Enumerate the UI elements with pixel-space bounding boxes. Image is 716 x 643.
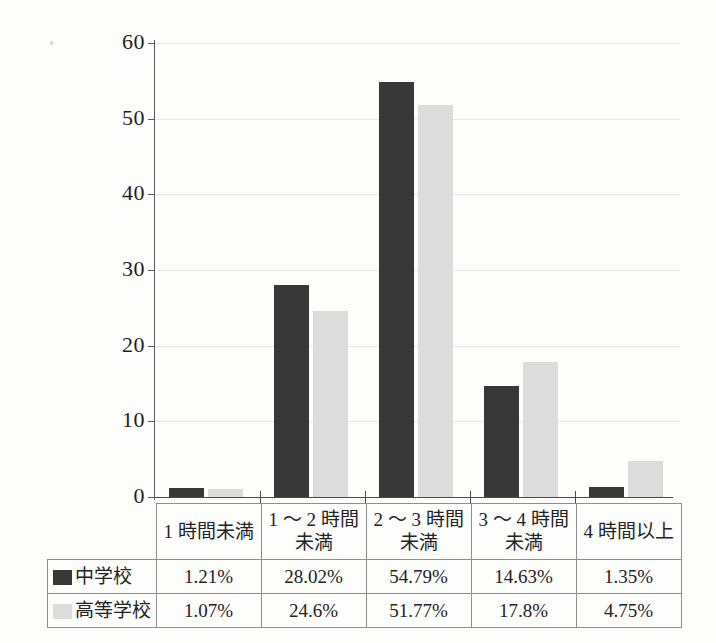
y-tick-label: 50 xyxy=(99,107,145,129)
y-tick-mark xyxy=(148,270,155,271)
table-cell-s0-c0: 1.21% xyxy=(156,560,261,594)
table-row-series-0: 中学校 1.21%28.02%54.79%14.63%1.35% xyxy=(48,560,682,594)
y-tick-label: 40 xyxy=(99,182,145,204)
table-header-category-3: 3 ～ 4 時間未満 xyxy=(471,504,576,560)
legend-swatch-icon-series-0 xyxy=(53,570,72,585)
table-row-series-1: 高等学校 1.07%24.6%51.77%17.8%4.75% xyxy=(48,594,682,628)
bar-0-2 xyxy=(379,82,414,497)
legend-cell-series-1: 高等学校 xyxy=(48,594,157,628)
chart-page: 0102030405060 1 時間未満1 ～ 2 時間未満2 ～ 3 時間未満… xyxy=(0,0,716,643)
table-cell-s0-c2: 54.79% xyxy=(366,560,471,594)
category-label-line: 未満 xyxy=(262,531,366,554)
category-label-line: 未満 xyxy=(367,531,471,554)
table-corner-cell xyxy=(48,504,157,560)
bar-1-3 xyxy=(523,362,558,497)
data-table: 1 時間未満1 ～ 2 時間未満2 ～ 3 時間未満3 ～ 4 時間未満4 時間… xyxy=(47,503,682,628)
table-cell-s1-c3: 17.8% xyxy=(471,594,576,628)
bar-group xyxy=(365,43,470,497)
scan-artifact-speck xyxy=(50,41,53,45)
plot-area xyxy=(155,43,680,497)
table-cell-s1-c2: 51.77% xyxy=(366,594,471,628)
category-label-line: 1 ～ 2 時間 xyxy=(262,508,366,531)
legend-swatch-icon-series-1 xyxy=(53,604,72,619)
table-header-category-4: 4 時間以上 xyxy=(576,504,681,560)
group-divider xyxy=(260,491,261,503)
table-header-category-2: 2 ～ 3 時間未満 xyxy=(366,504,471,560)
y-tick-label: 20 xyxy=(99,334,145,356)
legend-label-series-1: 高等学校 xyxy=(75,600,151,621)
category-label-line: 2 ～ 3 時間 xyxy=(367,508,471,531)
y-tick-label: 30 xyxy=(99,258,145,280)
legend-cell-series-0: 中学校 xyxy=(48,560,157,594)
bar-1-2 xyxy=(418,105,453,497)
y-tick-mark xyxy=(148,119,155,120)
y-tick-label: 60 xyxy=(99,31,145,53)
category-label-line: 1 時間未満 xyxy=(157,520,261,543)
bar-group xyxy=(155,43,260,497)
legend-label-series-0: 中学校 xyxy=(75,566,132,587)
table-row-categories: 1 時間未満1 ～ 2 時間未満2 ～ 3 時間未満3 ～ 4 時間未満4 時間… xyxy=(48,504,682,560)
bar-0-1 xyxy=(274,285,309,497)
bar-1-0 xyxy=(208,489,243,497)
category-label-line: 4 時間以上 xyxy=(577,520,681,543)
bar-1-4 xyxy=(628,461,663,497)
bar-0-0 xyxy=(169,488,204,497)
y-tick-label: 10 xyxy=(99,409,145,431)
bar-group xyxy=(575,43,680,497)
y-tick-mark xyxy=(148,421,155,422)
category-label-line: 3 ～ 4 時間 xyxy=(472,508,576,531)
bar-0-4 xyxy=(589,487,624,497)
bar-1-1 xyxy=(313,311,348,497)
table-cell-s1-c4: 4.75% xyxy=(576,594,681,628)
group-divider xyxy=(365,491,366,503)
table-cell-s0-c3: 14.63% xyxy=(471,560,576,594)
table-cell-s0-c4: 1.35% xyxy=(576,560,681,594)
bar-group xyxy=(260,43,365,497)
x-axis-line xyxy=(155,497,673,498)
y-tick-mark xyxy=(148,346,155,347)
category-label-line: 未満 xyxy=(472,531,576,554)
bar-group xyxy=(470,43,575,497)
bar-0-3 xyxy=(484,386,519,497)
table-cell-s1-c0: 1.07% xyxy=(156,594,261,628)
table-header-category-0: 1 時間未満 xyxy=(156,504,261,560)
y-tick-mark xyxy=(148,194,155,195)
y-tick-mark xyxy=(148,43,155,44)
table-header-category-1: 1 ～ 2 時間未満 xyxy=(261,504,366,560)
table-cell-s0-c1: 28.02% xyxy=(261,560,366,594)
group-divider xyxy=(470,491,471,503)
table-cell-s1-c1: 24.6% xyxy=(261,594,366,628)
group-divider xyxy=(575,491,576,503)
y-tick-mark xyxy=(148,497,155,498)
